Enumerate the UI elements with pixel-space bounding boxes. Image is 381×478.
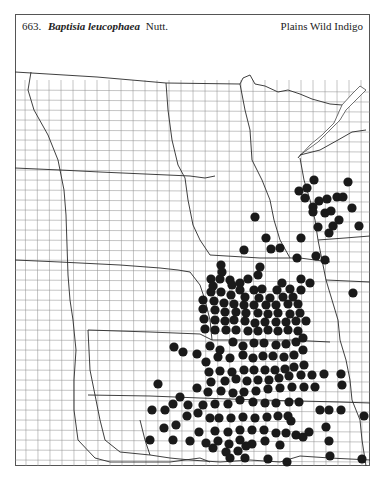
occurrence-dot (273, 411, 282, 420)
occurrence-dot (326, 206, 335, 215)
occurrence-dot (249, 285, 258, 294)
occurrence-dot (175, 392, 184, 401)
occurrence-dot (359, 411, 368, 420)
occurrence-dot (320, 255, 329, 264)
occurrence-dot (321, 422, 330, 431)
occurrence-dot (213, 352, 222, 361)
occurrence-dot (250, 212, 259, 221)
occurrence-dot (205, 413, 214, 422)
occurrence-dot (298, 345, 307, 354)
occurrence-dot (240, 453, 249, 462)
occurrence-dot (284, 397, 293, 406)
occurrence-dot (229, 315, 238, 324)
occurrence-dot (239, 245, 248, 254)
occurrence-dot (273, 326, 282, 335)
occurrence-dot (324, 405, 333, 414)
occurrence-dot (238, 412, 247, 421)
occurrence-dot (263, 384, 272, 393)
occurrence-dot (294, 186, 303, 195)
occurrence-dot (313, 222, 322, 231)
occurrence-dot (229, 299, 238, 308)
occurrence-dot (343, 177, 352, 186)
occurrence-dot (228, 388, 237, 397)
occurrence-dot (198, 400, 207, 409)
occurrence-dot (264, 375, 273, 384)
occurrence-dot (226, 413, 235, 422)
distribution-map (0, 0, 381, 478)
occurrence-dot (185, 436, 194, 445)
occurrence-dot (296, 285, 305, 294)
occurrence-dot (210, 325, 219, 334)
occurrence-dot (183, 400, 192, 409)
occurrence-dot (168, 435, 177, 444)
occurrence-dot (283, 325, 292, 334)
occurrence-dot (239, 300, 248, 309)
occurrence-dot (289, 362, 298, 371)
occurrence-dot (253, 270, 262, 279)
occurrence-dot (182, 411, 191, 420)
occurrence-dot (302, 183, 311, 192)
occurrence-dot (284, 371, 293, 380)
occurrence-dot (240, 316, 249, 325)
occurrence-dot (198, 304, 207, 313)
occurrence-dot (221, 325, 230, 334)
occurrence-dot (273, 308, 282, 317)
occurrence-dot (293, 299, 302, 308)
occurrence-dot (200, 324, 209, 333)
occurrence-dot (307, 370, 316, 379)
occurrence-dot (322, 194, 331, 203)
occurrence-dot (225, 453, 234, 462)
occurrence-dot (215, 366, 224, 375)
occurrence-dot (310, 382, 319, 391)
occurrence-dot (210, 426, 219, 435)
occurrence-dot (298, 432, 307, 441)
occurrence-dot (249, 300, 258, 309)
occurrence-dot (241, 308, 250, 317)
occurrence-dot (271, 428, 280, 437)
occurrence-dot (296, 274, 305, 283)
occurrence-dot (271, 317, 280, 326)
occurrence-dot (281, 317, 290, 326)
occurrence-dot (198, 295, 207, 304)
occurrence-dot (203, 387, 212, 396)
occurrence-dot (216, 287, 225, 296)
occurrence-dot (295, 308, 304, 317)
occurrence-dot (253, 326, 262, 335)
occurrence-dot (223, 427, 232, 436)
occurrence-dot (249, 365, 258, 374)
occurrence-dot (294, 397, 303, 406)
occurrence-dot (210, 315, 219, 324)
occurrence-dot (259, 425, 268, 434)
occurrence-dot (201, 357, 210, 366)
occurrence-dot (199, 314, 208, 323)
occurrence-dot (281, 339, 290, 348)
occurrence-dot (281, 428, 290, 437)
occurrence-dot (324, 228, 333, 237)
occurrence-dot (242, 376, 251, 385)
occurrence-dot (147, 405, 156, 414)
occurrence-dot (206, 377, 215, 386)
occurrence-dot (248, 397, 257, 406)
occurrence-dot (204, 367, 213, 376)
occurrence-dot (253, 308, 262, 317)
occurrence-dot (192, 383, 201, 392)
occurrence-dot (325, 451, 334, 460)
occurrence-dot (145, 435, 154, 444)
occurrence-dot (285, 309, 294, 318)
occurrence-dot (235, 395, 244, 404)
occurrence-dot (235, 425, 244, 434)
occurrence-dot (216, 386, 225, 395)
occurrence-dot (311, 251, 320, 260)
occurrence-dot (249, 338, 258, 347)
occurrence-dot (261, 233, 270, 242)
occurrence-dot (266, 244, 275, 253)
occurrence-dot (238, 350, 247, 359)
occurrence-dot (209, 296, 218, 305)
occurrence-dot (299, 382, 308, 391)
occurrence-dot (250, 318, 259, 327)
occurrence-dot (315, 405, 324, 414)
occurrence-dot (219, 298, 228, 307)
occurrence-dot (171, 420, 180, 429)
occurrence-dot (243, 274, 252, 283)
occurrence-dot (301, 316, 310, 325)
